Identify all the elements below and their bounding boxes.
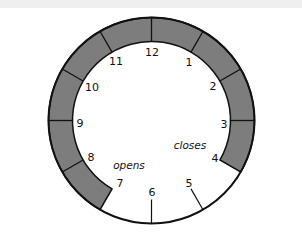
- hour-dividers: [49, 18, 255, 173]
- hour-label: 9: [77, 117, 84, 130]
- hour-numbers: 121234567891011: [77, 46, 228, 199]
- tick-mark: [191, 189, 203, 210]
- annotations: closesopens: [113, 139, 207, 171]
- hour-label: 8: [88, 151, 95, 164]
- hour-label: 11: [109, 55, 123, 68]
- hour-ticks: [152, 189, 204, 224]
- clock-diagram: 121234567891011 closesopens: [0, 0, 302, 233]
- hour-label: 2: [210, 80, 217, 93]
- hour-label: 1: [186, 56, 193, 69]
- hour-label: 7: [117, 177, 124, 190]
- annotation-closes: closes: [174, 139, 207, 151]
- hour-label: 5: [186, 177, 193, 190]
- annotation-opens: opens: [113, 159, 145, 171]
- hour-label: 4: [212, 152, 219, 165]
- hour-label: 3: [221, 118, 228, 131]
- hour-label: 12: [145, 46, 159, 59]
- hour-label: 6: [149, 186, 156, 199]
- hour-label: 10: [85, 81, 99, 94]
